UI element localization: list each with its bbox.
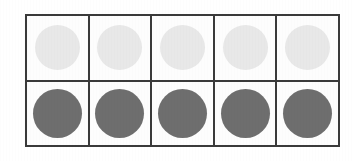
dark-circle-icon [283,89,332,138]
dark-circle-icon [95,89,144,138]
grid-row-bottom [27,80,338,146]
light-circle-icon [223,25,268,70]
grid-row-top [27,16,338,80]
grid-cell-bottom-4 [213,82,276,146]
grid-cell-bottom-3 [150,82,213,146]
dark-circle-icon [158,89,207,138]
dark-circle-icon [33,89,82,138]
grid-cell-top-5 [275,16,338,80]
circle-grid [25,14,340,147]
light-circle-icon [35,25,80,70]
figure-root [0,0,354,161]
grid-cell-bottom-2 [88,82,151,146]
grid-cell-bottom-5 [275,82,338,146]
light-circle-icon [97,25,142,70]
light-circle-icon [285,25,330,70]
dark-circle-icon [221,89,270,138]
grid-cell-top-1 [27,16,88,80]
grid-cell-bottom-1 [27,82,88,146]
light-circle-icon [160,25,205,70]
grid-cell-top-3 [150,16,213,80]
grid-cell-top-4 [213,16,276,80]
grid-cell-top-2 [88,16,151,80]
